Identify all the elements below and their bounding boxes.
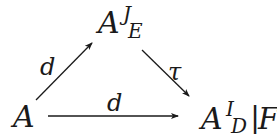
node-target-subscript: D bbox=[231, 116, 247, 134]
edge-label-top-target: τ bbox=[168, 60, 181, 84]
node-source: A bbox=[13, 102, 35, 132]
edge-label-source-top: d bbox=[40, 55, 55, 79]
node-source-base: A bbox=[13, 99, 35, 134]
node-top-base: A bbox=[98, 8, 120, 38]
commutative-diagram: A A J E A I D | F d τ d bbox=[0, 0, 277, 134]
node-target-base: A bbox=[201, 104, 223, 134]
edge-label-source-target: d bbox=[107, 91, 122, 115]
arrow-top-to-target bbox=[142, 50, 189, 96]
node-target-suffix: F bbox=[258, 104, 277, 134]
node-top-subscript: E bbox=[128, 21, 143, 41]
